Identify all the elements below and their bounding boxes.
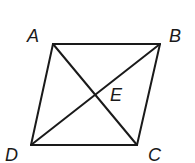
vertex-label-c: C <box>148 145 162 163</box>
intersection-label-e: E <box>110 85 123 105</box>
parallelogram-diagram: A B C D E <box>0 0 195 163</box>
vertex-label-d: D <box>5 145 18 163</box>
vertex-label-a: A <box>26 26 39 46</box>
vertex-label-b: B <box>169 26 181 46</box>
